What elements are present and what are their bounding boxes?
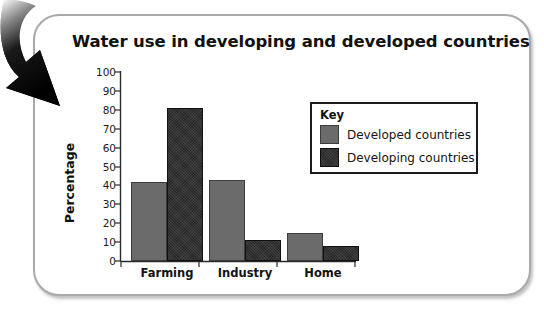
y-tick-label: 70 bbox=[88, 123, 116, 135]
legend-label-developing: Developing countries bbox=[347, 151, 475, 165]
legend-row-developing: Developing countries bbox=[320, 146, 470, 169]
legend-row-developed: Developed countries bbox=[320, 123, 470, 146]
y-tick-label: 90 bbox=[88, 85, 116, 97]
legend-swatch-developed bbox=[320, 125, 339, 144]
x-tick-label-industry: Industry bbox=[200, 266, 290, 280]
y-tick-label: 20 bbox=[88, 217, 116, 229]
y-tick-label: 10 bbox=[88, 236, 116, 248]
bar-farming-developing bbox=[167, 108, 203, 261]
legend-swatch-developing bbox=[320, 148, 339, 167]
y-tick-label: 0 bbox=[88, 255, 116, 267]
x-tick-label-farming: Farming bbox=[122, 266, 212, 280]
legend-label-developed: Developed countries bbox=[347, 128, 471, 142]
y-tick-label: 30 bbox=[88, 198, 116, 210]
bar-industry-developing bbox=[245, 240, 281, 261]
y-axis-title: Percentage bbox=[62, 128, 77, 238]
x-tick-label-home: Home bbox=[278, 266, 368, 280]
legend-title: Key bbox=[320, 108, 470, 122]
chart-legend: Key Developed countries Developing count… bbox=[310, 102, 478, 174]
bar-home-developing bbox=[323, 246, 359, 261]
chart-title: Water use in developing and developed co… bbox=[72, 32, 492, 51]
y-tick-label: 60 bbox=[88, 142, 116, 154]
bar-farming-developed bbox=[131, 182, 167, 261]
y-tick-label: 100 bbox=[88, 66, 116, 78]
bar-industry-developed bbox=[209, 180, 245, 261]
bar-home-developed bbox=[287, 233, 323, 261]
y-tick-label: 50 bbox=[88, 161, 116, 173]
y-tick-label: 40 bbox=[88, 179, 116, 191]
y-tick-label: 80 bbox=[88, 104, 116, 116]
